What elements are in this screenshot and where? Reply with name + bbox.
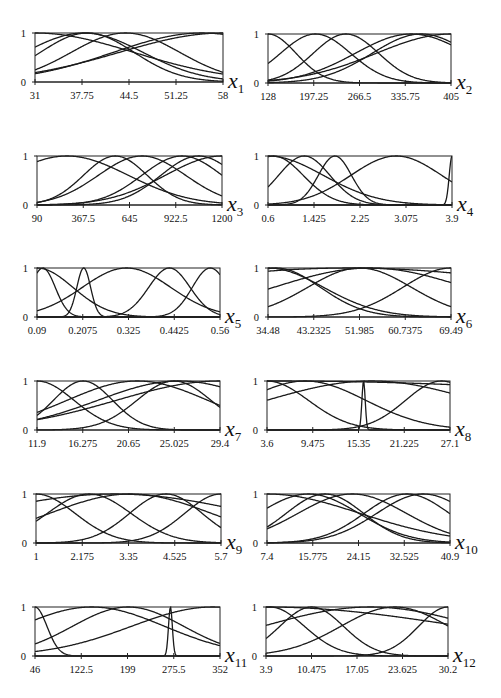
- curves: [268, 156, 452, 205]
- x-tick-label: 60.7375: [388, 325, 422, 336]
- curves: [37, 156, 222, 205]
- x-tick-label: 43.2325: [297, 325, 331, 336]
- x-tick-label: 199: [120, 664, 136, 675]
- chart-x9: 1012.1753.354.5255.7x9: [22, 489, 243, 562]
- y-tick-label-1: 1: [253, 376, 258, 387]
- membership-curve-2: [267, 494, 450, 543]
- chart-x12: 103.910.47517.0523.62530.2x12: [252, 602, 476, 675]
- curves: [36, 494, 221, 543]
- membership-curve-5: [267, 494, 450, 543]
- y-tick-label-1: 1: [21, 28, 26, 39]
- x-tick-label: 11.9: [28, 438, 46, 449]
- membership-curve-6: [268, 156, 452, 205]
- x-tick-label: 122.5: [69, 664, 93, 675]
- plot-frame: [268, 156, 452, 205]
- x-tick-label: 25.025: [160, 438, 189, 449]
- x-tick-label: 58: [218, 90, 229, 101]
- x-tick-label: 24.15: [347, 551, 371, 562]
- x-tick-label: 23.625: [388, 664, 417, 675]
- membership-curve-4: [37, 381, 220, 430]
- membership-curve-2: [268, 156, 452, 205]
- chart-x8: 103.69.47515.3521.22527.1x8: [253, 376, 472, 449]
- y-tick-label-0: 0: [23, 312, 28, 323]
- x-tick-label: 51.25: [164, 90, 188, 101]
- axis-variable-label: x7: [224, 416, 242, 444]
- axis-variable-label: x12: [452, 642, 476, 670]
- chart-x4: 100.61.4252.253.0753.9x4: [254, 151, 474, 224]
- x-tick-label: 20.65: [117, 438, 141, 449]
- x-tick-label: 46: [30, 664, 41, 675]
- y-tick-label-0: 0: [253, 538, 258, 549]
- x-tick-label: 0.4425: [160, 325, 189, 336]
- y-tick-label-0: 0: [253, 425, 258, 436]
- membership-curve-2: [37, 381, 220, 430]
- y-tick-label-1: 1: [253, 489, 258, 500]
- chart-x1: 103137.7544.551.2558x1: [21, 28, 245, 101]
- y-tick-label-0: 0: [254, 312, 259, 323]
- x-tick-label: 0.09: [28, 325, 46, 336]
- axis-variable-label: x6: [455, 303, 473, 331]
- membership-curve-2: [266, 607, 448, 656]
- x-tick-label: 15.775: [298, 551, 327, 562]
- y-tick-label-1: 1: [254, 151, 259, 162]
- x-tick-label: 0.2075: [68, 325, 97, 336]
- x-tick-label: 21.225: [390, 438, 419, 449]
- curves: [267, 494, 450, 543]
- curves: [37, 381, 220, 430]
- curves: [267, 381, 450, 430]
- y-tick-label-0: 0: [21, 651, 26, 662]
- y-tick-label-1: 1: [252, 602, 257, 613]
- axis-variable-label: x2: [455, 69, 472, 97]
- membership-curve-4: [267, 494, 450, 543]
- axis-variable-label: x4: [456, 191, 474, 219]
- membership-curve-6: [267, 381, 450, 385]
- membership-curve-4: [35, 607, 220, 652]
- x-tick-label: 197.25: [299, 91, 328, 102]
- x-tick-label: 9.475: [301, 438, 325, 449]
- membership-curve-6: [35, 33, 223, 79]
- axis-variable-label: x11: [224, 642, 247, 670]
- chart-x6: 1034.4843.232551.98560.737569.49x6: [254, 263, 473, 336]
- x-tick-label: 1.425: [302, 213, 326, 224]
- y-tick-label-0: 0: [252, 651, 257, 662]
- x-tick-label: 3.35: [119, 551, 137, 562]
- y-tick-label-0: 0: [21, 77, 26, 88]
- y-tick-label-1: 1: [254, 263, 259, 274]
- x-tick-label: 266.5: [348, 91, 372, 102]
- plot-frame: [37, 381, 220, 430]
- y-tick-label-1: 1: [23, 263, 28, 274]
- y-tick-label-0: 0: [22, 538, 27, 549]
- membership-curve-2: [268, 34, 451, 83]
- x-tick-label: 275.5: [162, 664, 186, 675]
- y-tick-label-0: 0: [23, 425, 28, 436]
- axis-variable-label: x10: [454, 529, 478, 557]
- x-tick-label: 10.475: [297, 664, 326, 675]
- membership-curve-3: [268, 156, 452, 205]
- y-tick-label-1: 1: [23, 151, 28, 162]
- axis-variable-label: x8: [454, 416, 471, 444]
- curves: [268, 268, 451, 317]
- x-tick-label: 1: [33, 551, 38, 562]
- x-tick-label: 2.25: [351, 213, 369, 224]
- curves: [268, 34, 451, 83]
- axis-variable-label: x3: [226, 191, 243, 219]
- membership-curve-4: [37, 268, 220, 317]
- x-tick-label: 51.985: [345, 325, 374, 336]
- y-tick-label-1: 1: [21, 602, 26, 613]
- plot-frame: [35, 33, 223, 82]
- chart-x7: 1011.916.27520.6525.02529.4x7: [23, 376, 242, 449]
- x-tick-label: 128: [260, 91, 276, 102]
- x-tick-label: 0.6: [261, 213, 274, 224]
- x-tick-label: 17.05: [345, 664, 369, 675]
- x-tick-label: 44.5: [120, 90, 138, 101]
- chart-x10: 107.415.77524.1532.52540.9x10: [253, 489, 478, 562]
- chart-x5: 100.090.20750.3250.44250.56x5: [23, 263, 242, 336]
- x-tick-label: 34.48: [256, 325, 280, 336]
- membership-curve-4: [268, 156, 452, 204]
- y-tick-label-0: 0: [254, 78, 259, 89]
- membership-curve-6: [266, 607, 448, 624]
- curves: [37, 268, 220, 317]
- chart-x2: 10128197.25266.5335.75405x2: [254, 29, 473, 102]
- x-tick-label: 645: [122, 213, 138, 224]
- curves: [266, 607, 448, 656]
